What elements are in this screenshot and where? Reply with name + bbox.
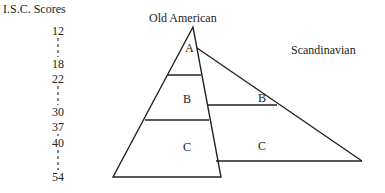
- old-american-segment-b: B: [183, 93, 191, 105]
- scandinavian-shape: [197, 48, 362, 161]
- old-american-shape: [113, 27, 221, 177]
- old-american-segment-c: C: [183, 141, 191, 153]
- group-label-scandinavian: Scandinavian: [291, 44, 356, 56]
- group-label-old-american: Old American: [149, 12, 217, 24]
- diagram-canvas: [0, 0, 385, 193]
- scandinavian-segment-b: B: [258, 92, 266, 104]
- old-american-segment-a: A: [185, 42, 194, 54]
- scandinavian-segment-c: C: [258, 140, 266, 152]
